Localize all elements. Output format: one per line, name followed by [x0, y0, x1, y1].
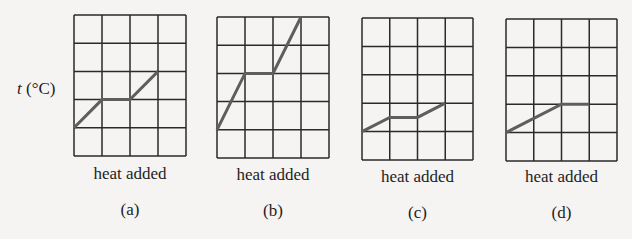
figure: t (°C) heat added (a) heat added (b) hea…	[0, 0, 632, 239]
panel-label-d: (d)	[506, 203, 617, 223]
x-axis-label-b: heat added	[215, 165, 331, 185]
grid-chart-a	[74, 15, 186, 156]
panel-a	[74, 15, 186, 156]
panel-d	[506, 19, 617, 161]
panel-b	[217, 17, 329, 158]
grid-chart-d	[506, 19, 617, 161]
panel-label-c: (c)	[362, 203, 473, 223]
panel-label-b: (b)	[215, 201, 331, 221]
heating-curve	[362, 103, 445, 131]
panel-c	[362, 18, 473, 160]
grid-chart-c	[362, 18, 473, 160]
y-axis-unit: (°C)	[22, 79, 56, 98]
x-axis-label-a: heat added	[74, 164, 186, 184]
x-axis-label-c: heat added	[362, 167, 473, 187]
heating-curve	[506, 104, 589, 132]
panel-label-a: (a)	[74, 200, 186, 220]
y-axis-label: t (°C)	[17, 79, 55, 99]
grid-chart-b	[217, 17, 329, 158]
x-axis-label-d: heat added	[506, 167, 617, 187]
